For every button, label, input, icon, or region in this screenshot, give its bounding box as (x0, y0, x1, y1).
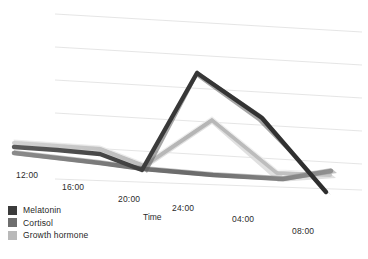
x-tick-0800: 08:00 (292, 226, 314, 236)
legend-item-growth-hormone[interactable]: Growth hormone (8, 229, 88, 242)
hormone-rhythm-chart: 12:00 16:00 20:00 24:00 04:00 08:00 Time… (0, 0, 368, 259)
gridline (55, 47, 362, 65)
x-tick-0400: 04:00 (232, 214, 254, 224)
x-tick-2000: 20:00 (118, 194, 140, 204)
gridline (55, 14, 362, 32)
x-axis-title: Time (143, 212, 162, 222)
legend-label-melatonin: Melatonin (23, 205, 61, 215)
x-tick-2400: 24:00 (172, 203, 194, 213)
legend-swatch-melatonin (8, 206, 17, 215)
legend-item-cortisol[interactable]: Cortisol (8, 217, 88, 230)
legend-swatch-cortisol (8, 218, 17, 227)
series-cortisol (14, 150, 337, 181)
x-tick-1200: 12:00 (16, 170, 38, 180)
chart-legend: Melatonin Cortisol Growth hormone (8, 204, 88, 242)
x-tick-1600: 16:00 (62, 182, 84, 192)
legend-label-cortisol: Cortisol (23, 218, 53, 228)
legend-swatch-growth-hormone (8, 231, 17, 240)
legend-item-melatonin[interactable]: Melatonin (8, 204, 88, 217)
legend-label-growth-hormone: Growth hormone (23, 230, 88, 240)
